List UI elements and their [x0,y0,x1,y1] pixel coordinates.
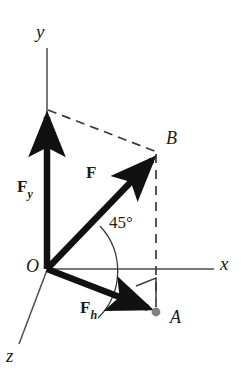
vector-label-fh-subscript: h [90,308,97,322]
point-label-b: B [166,129,177,147]
angle-label-45: 45° [109,214,133,231]
point-label-a: A [170,308,181,326]
dashed-line-ytip-to-b [48,110,157,152]
z-axis-label: z [6,346,13,365]
point-a-dot [152,308,161,317]
vector-label-fh-base: F [80,298,90,317]
vector-label-fh: Fh [80,299,97,319]
vector-label-f-base: F [86,163,96,182]
vector-fh [47,269,148,308]
vector-label-fy-subscript: y [27,187,32,201]
z-axis-line [19,270,47,344]
right-angle-marker [136,278,156,298]
vector-f [47,160,152,269]
point-label-o: O [26,257,39,275]
vector-label-f: F [86,164,96,181]
x-axis-label: x [220,254,228,273]
vector-label-fy: Fy [17,178,33,198]
vector-label-fy-base: F [17,177,27,196]
diagram-canvas [0,0,241,378]
y-axis-label: y [36,22,44,41]
angle-arc-45 [98,226,118,318]
vector-diagram-figure: y x z O B A Fy F Fh 45° [0,0,241,378]
